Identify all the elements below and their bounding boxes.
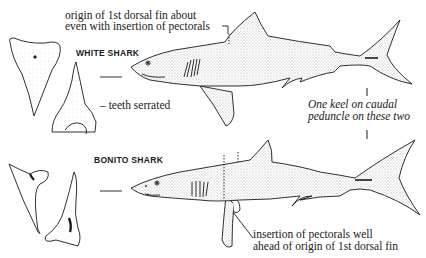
white-shark-label: WHITE SHARK — [76, 48, 139, 58]
keel-note-line2: peduncle on these two — [308, 110, 410, 122]
bonito-shark-tooth-lower — [45, 172, 80, 246]
dorsal-origin-note-line2: even with insertion of pectorals — [65, 20, 210, 32]
teeth-serrated-note: – teeth serrated — [100, 99, 170, 111]
illustration-canvas — [0, 0, 426, 258]
pectoral-insertion-note-line1: insertion of pectorals well — [253, 228, 373, 240]
pectoral-insertion-note-line2: ahead of origin of 1st dorsal fin — [253, 240, 398, 252]
white-shark-tooth-upper — [10, 38, 61, 116]
keel-note-line1: One keel on caudal — [308, 98, 397, 110]
bonito-shark-label: BONITO SHARK — [94, 155, 163, 165]
bonito-shark-tooth-upper — [9, 164, 48, 234]
white-shark-tooth-lower — [52, 62, 96, 134]
